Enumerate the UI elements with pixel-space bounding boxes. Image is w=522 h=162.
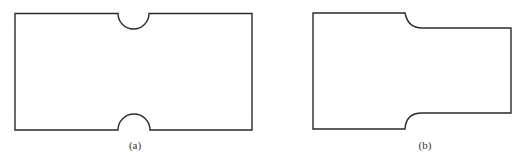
notched-plate-outline (15, 14, 252, 131)
diagram-canvas (0, 0, 522, 162)
stepped-plate-outline (313, 13, 511, 129)
figure-a-caption: (a) (129, 139, 141, 151)
figure-b-caption: (b) (419, 139, 432, 151)
